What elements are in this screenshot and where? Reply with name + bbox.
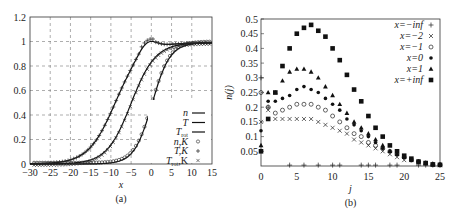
data-point xyxy=(302,102,306,106)
data-point xyxy=(280,108,284,112)
legend-label: Trot,K xyxy=(166,155,189,167)
legend-label: x=−1 xyxy=(399,41,423,52)
data-point xyxy=(352,138,356,142)
x-tick-label: 5 xyxy=(294,171,299,182)
y-tick-label: 0.15 xyxy=(241,116,259,127)
data-point xyxy=(331,126,335,130)
x-tick-label: 15 xyxy=(363,171,373,182)
data-point xyxy=(266,90,271,94)
y-tick-label: 0.8 xyxy=(14,61,27,72)
x-tick-label: −20 xyxy=(63,167,79,178)
data-point xyxy=(266,117,271,122)
x-tick-label: −15 xyxy=(83,167,99,178)
chart-caption: (a) xyxy=(115,193,126,205)
data-point xyxy=(438,163,443,168)
marker-T-K xyxy=(114,99,118,103)
data-point xyxy=(280,117,284,121)
data-point xyxy=(366,140,370,144)
data-point xyxy=(302,117,306,121)
x-tick-label: 5 xyxy=(169,167,174,178)
series-cross xyxy=(259,108,442,167)
series-plus xyxy=(259,75,443,167)
legend-label: x=−2 xyxy=(399,30,423,41)
data-point xyxy=(338,120,342,124)
x-tick-label: 10 xyxy=(187,167,197,178)
data-point xyxy=(274,100,278,104)
chart-a: 00.20.40.60.811.2−30−25−20−15−10−5051015… xyxy=(14,12,218,206)
data-point xyxy=(395,163,400,168)
data-point xyxy=(423,161,428,166)
data-point xyxy=(331,114,335,118)
legend-dot-icon xyxy=(429,56,433,60)
legend-square-icon xyxy=(429,78,434,83)
data-point xyxy=(316,28,321,33)
data-point xyxy=(373,163,378,168)
marker-T-K xyxy=(140,45,144,49)
data-point xyxy=(281,97,285,101)
data-point xyxy=(338,129,342,133)
data-point xyxy=(316,105,320,109)
marker-T-K xyxy=(103,123,107,127)
y-tick-label: 1.2 xyxy=(14,12,27,23)
legend-label: x=−inf xyxy=(394,19,425,30)
data-point xyxy=(338,108,342,112)
series-circle xyxy=(259,91,442,167)
marker-T-K xyxy=(159,42,163,46)
y-tick-label: 0.2 xyxy=(14,134,27,145)
data-point xyxy=(323,84,328,88)
data-point xyxy=(309,117,313,121)
data-point xyxy=(309,102,313,106)
data-point xyxy=(431,162,436,167)
data-point xyxy=(331,102,335,106)
data-point xyxy=(409,156,414,161)
data-point xyxy=(337,163,342,168)
data-point xyxy=(366,163,371,168)
data-point xyxy=(259,75,264,80)
data-point xyxy=(323,108,327,112)
data-point xyxy=(273,90,278,95)
data-point xyxy=(288,117,292,121)
data-point xyxy=(330,93,335,97)
data-point xyxy=(316,120,320,124)
legend-label: x=1 xyxy=(406,63,423,74)
y-tick-label: 0.1 xyxy=(246,131,259,142)
data-point xyxy=(352,119,357,123)
legend: nTTrotn,KT,KTrot,K xyxy=(148,100,211,167)
data-point xyxy=(387,163,392,168)
figure: 00.20.40.60.811.2−30−25−20−15−10−5051015… xyxy=(0,0,453,214)
data-point xyxy=(345,126,349,130)
y-tick-label: 0.25 xyxy=(241,87,259,98)
data-point xyxy=(395,149,400,154)
data-point xyxy=(359,163,364,168)
x-tick-label: −10 xyxy=(103,167,119,178)
x-tick-label: −25 xyxy=(42,167,58,178)
data-point xyxy=(287,69,292,73)
data-point xyxy=(309,23,314,28)
legend-label: x=0 xyxy=(406,52,423,63)
data-point xyxy=(352,132,356,136)
data-point xyxy=(287,46,292,51)
y-tick-label: 0.35 xyxy=(241,58,259,69)
data-point xyxy=(295,31,300,36)
data-point xyxy=(337,102,342,106)
x-tick-label: −5 xyxy=(126,167,137,178)
data-point xyxy=(294,66,299,70)
x-tick-label: 10 xyxy=(328,171,338,182)
data-point xyxy=(288,105,292,109)
y-tick-label: 0.05 xyxy=(241,146,259,157)
y-tick-label: 0.3 xyxy=(246,72,259,83)
y-tick-label: 0.5 xyxy=(246,14,259,25)
series-dot xyxy=(259,85,442,167)
data-point xyxy=(259,129,263,133)
data-point xyxy=(301,163,306,168)
marker-T-K xyxy=(106,118,110,122)
data-point xyxy=(295,102,299,106)
data-point xyxy=(302,66,307,70)
data-point xyxy=(302,85,306,89)
marker-T-K xyxy=(123,80,127,84)
y-tick-label: 0.4 xyxy=(14,110,27,121)
data-point xyxy=(273,111,277,115)
data-point xyxy=(295,117,299,121)
data-point xyxy=(316,91,320,95)
legend-circle-icon xyxy=(429,45,433,49)
